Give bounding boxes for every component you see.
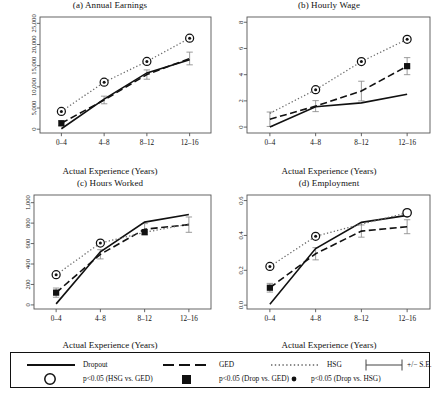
svg-text:0.2: 0.2 — [237, 266, 244, 274]
panel-d-plot: 0.00.20.40.60–44–88–1212–16 — [219, 190, 439, 340]
marker-sig-hsg-vs-ged-and-drop-vs-hsg — [312, 232, 320, 240]
svg-text:4–8: 4–8 — [310, 315, 321, 323]
errorbar-key — [363, 357, 405, 373]
series-line-dropout — [61, 60, 189, 129]
panel-b-xlabel: Actual Experience (Years) — [219, 166, 439, 176]
svg-text:12–16: 12–16 — [398, 139, 416, 147]
solid-line-key — [25, 358, 77, 372]
svg-text:0–4: 0–4 — [56, 139, 67, 147]
series-line-hsg — [270, 39, 407, 113]
legend-label-sig-hsg-ged: p<0.05 (HSG vs. GED) — [83, 374, 153, 383]
panel-hourly-wage: (b) Hourly Wage 024680–44–88–1212–16 Act… — [219, 0, 439, 178]
svg-text:4–8: 4–8 — [310, 139, 321, 147]
svg-text:4–8: 4–8 — [95, 315, 106, 323]
svg-text:0–4: 0–4 — [51, 315, 62, 323]
svg-text:8–12: 8–12 — [354, 139, 369, 147]
svg-text:0: 0 — [24, 303, 31, 307]
svg-text:12–16: 12–16 — [180, 315, 198, 323]
panel-c-plot: 02004006008001,0000–44–88–1212–16 — [0, 190, 220, 340]
marker-sig-hsg-vs-ged-and-drop-vs-hsg — [57, 107, 65, 115]
legend-label-ged: GED — [219, 360, 234, 369]
marker-sig-hsg-vs-ged-and-drop-vs-hsg — [403, 35, 411, 43]
svg-text:0.6: 0.6 — [237, 196, 244, 205]
svg-text:0–4: 0–4 — [264, 315, 275, 323]
plot-d: 0.00.20.40.60–44–88–1212–16 — [219, 190, 439, 336]
svg-text:0–4: 0–4 — [264, 139, 275, 147]
svg-text:2: 2 — [237, 99, 244, 102]
svg-text:0.4: 0.4 — [237, 231, 244, 240]
marker-sig-hsg-vs-ged-and-drop-vs-hsg — [96, 239, 104, 247]
series-line-ged — [270, 66, 407, 119]
svg-text:12–16: 12–16 — [181, 139, 199, 147]
svg-text:8–12: 8–12 — [140, 139, 155, 147]
svg-text:25,000: 25,000 — [30, 14, 37, 33]
legend-label-sig-drop-ged: p<0.05 (Drop vs. GED) — [219, 374, 289, 383]
panel-c-xlabel: Actual Experience (Years) — [0, 340, 220, 350]
marker-sig-hsg-vs-ged-and-drop-vs-hsg — [312, 86, 320, 94]
marker-sig-hsg-vs-ged-and-drop-vs-hsg — [186, 34, 194, 42]
legend-label-dropout: Dropout — [83, 360, 108, 369]
marker-sig-hsg-vs-ged-and-drop-vs-hsg — [52, 271, 60, 279]
svg-text:4–8: 4–8 — [99, 139, 110, 147]
svg-text:8–12: 8–12 — [354, 315, 369, 323]
legend-box: Dropout GED HSG +/− S.E. p<0.05 (HSG vs.… — [10, 352, 430, 388]
svg-text:8–12: 8–12 — [137, 315, 152, 323]
panel-d-title: (d) Employment — [219, 178, 439, 188]
marker-sig-hsg-vs-ged-and-drop-vs-hsg — [266, 262, 274, 270]
panel-annual-earnings: (a) Annual Earnings 05,00010,00015,00020… — [0, 0, 220, 178]
marker-sig-drop-vs-ged — [267, 285, 273, 291]
series-line-dropout — [270, 94, 407, 127]
legend-label-sig-drop-hsg: p<0.05 (Drop vs. HSG) — [311, 374, 381, 383]
series-line-dropout — [56, 214, 189, 303]
marker-sig-drop-vs-ged — [58, 120, 64, 126]
marker-sig-drop-vs-ged — [142, 229, 148, 235]
series-line-dropout — [270, 215, 407, 304]
svg-text:0.0: 0.0 — [237, 300, 244, 309]
svg-text:8: 8 — [237, 20, 244, 24]
panel-a-title: (a) Annual Earnings — [0, 0, 220, 10]
series-line-ged — [56, 225, 189, 293]
svg-text:800: 800 — [24, 217, 31, 228]
panel-a-plot: 05,00010,00015,00020,00025,0000–44–88–12… — [0, 12, 220, 164]
filled-square-marker — [179, 372, 195, 386]
small-dot-marker — [287, 372, 301, 386]
svg-text:15,000: 15,000 — [30, 56, 37, 75]
marker-sig-hsg-vs-ged-and-drop-vs-hsg — [357, 58, 365, 66]
plot-c: 02004006008001,0000–44–88–1212–16 — [0, 190, 220, 336]
svg-text:0: 0 — [30, 127, 37, 131]
plot-a: 05,00010,00015,00020,00025,0000–44–88–12… — [0, 12, 220, 160]
svg-text:200: 200 — [24, 279, 31, 290]
marker-sig-hsg-vs-ged-and-drop-vs-hsg — [100, 78, 108, 86]
series-line-hsg — [270, 213, 407, 267]
marker-sig-hsg-vs-ged — [403, 209, 411, 217]
legend-label-se: +/− S.E. — [407, 360, 432, 369]
panel-hours-worked: (c) Hours Worked 02004006008001,0000–44–… — [0, 178, 220, 350]
svg-text:600: 600 — [24, 238, 31, 249]
plot-b: 024680–44–88–1212–16 — [219, 12, 439, 160]
legend-label-hsg: HSG — [327, 360, 342, 369]
svg-text:4: 4 — [237, 72, 244, 76]
figure-root: (a) Annual Earnings 05,00010,00015,00020… — [0, 0, 439, 395]
series-line-hsg — [56, 224, 189, 275]
svg-text:10,000: 10,000 — [30, 77, 37, 96]
dashed-line-key — [161, 358, 213, 372]
panel-b-title: (b) Hourly Wage — [219, 0, 439, 10]
open-circle-marker — [41, 372, 59, 386]
marker-sig-drop-vs-ged — [404, 63, 410, 69]
panel-employment: (d) Employment 0.00.20.40.60–44–88–1212–… — [219, 178, 439, 350]
panel-a-xlabel: Actual Experience (Years) — [0, 166, 220, 176]
svg-text:12–16: 12–16 — [398, 315, 416, 323]
svg-text:6: 6 — [237, 46, 244, 50]
svg-text:1,000: 1,000 — [24, 195, 31, 211]
dotted-line-key — [269, 358, 321, 372]
svg-text:20,000: 20,000 — [30, 35, 37, 54]
panel-d-xlabel: Actual Experience (Years) — [219, 340, 439, 350]
svg-text:0: 0 — [237, 125, 244, 129]
panel-c-title: (c) Hours Worked — [0, 178, 220, 188]
marker-sig-hsg-vs-ged-and-drop-vs-hsg — [143, 57, 151, 65]
marker-sig-drop-vs-ged — [53, 290, 59, 296]
svg-text:5,000: 5,000 — [30, 100, 37, 116]
series-line-hsg — [61, 38, 189, 111]
series-line-ged — [61, 58, 189, 123]
panel-b-plot: 024680–44–88–1212–16 — [219, 12, 439, 164]
